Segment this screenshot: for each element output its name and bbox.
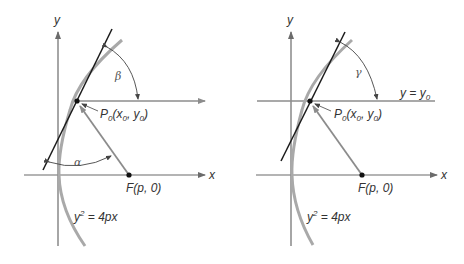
x-axis-label: x (440, 168, 448, 182)
horizontal-line-label: y = y0 (399, 86, 431, 102)
gamma-label: γ (355, 66, 362, 79)
parabola-equation: y2 = 4px (73, 209, 119, 224)
left-diagram: x y β α P0(x0, y0) F(p, 0) y2 = 4p (24, 13, 216, 246)
focus-label: F(p, 0) (358, 181, 393, 195)
focus-point (126, 172, 131, 177)
beta-label: β (114, 70, 121, 83)
focus-point (359, 172, 364, 177)
p0-pointer (315, 104, 331, 111)
point-p0 (307, 98, 312, 103)
right-diagram: x y γ y = y0 P0(x0, y0) F(p, 0) (256, 13, 448, 246)
p0-pointer (82, 104, 98, 111)
focus-label: F(p, 0) (126, 181, 161, 195)
alpha-label: α (74, 156, 82, 169)
parabola-reflection-figure: x y β α P0(x0, y0) F(p, 0) y2 = 4p (0, 0, 464, 264)
p0-label: P0(x0, y0) (334, 107, 382, 123)
parabola-equation: y2 = 4px (306, 209, 352, 224)
x-axis-label: x (208, 168, 216, 182)
beta-arc (107, 47, 138, 99)
y-axis-label: y (53, 13, 61, 27)
p0-label: P0(x0, y0) (100, 107, 148, 123)
y-axis-label: y (286, 13, 294, 27)
point-p0 (74, 98, 79, 103)
